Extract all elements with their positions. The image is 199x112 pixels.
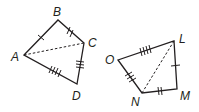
- vertex-label-o: O: [105, 53, 114, 67]
- vertex-label-l: L: [179, 32, 186, 46]
- vertex-label-a: A: [10, 50, 19, 64]
- geometry-diagram: B C A D L M N O: [0, 0, 199, 112]
- vertex-label-b: B: [53, 5, 61, 19]
- vertex-label-m: M: [180, 89, 190, 103]
- polygon-abcd: [24, 20, 84, 84]
- vertex-label-n: N: [131, 95, 140, 109]
- polygon-lmno: [118, 41, 177, 93]
- vertex-label-d: D: [72, 89, 81, 103]
- diagonal-ac: [24, 43, 84, 55]
- tick-marks-lm: [171, 65, 180, 66]
- quadrilateral-abcd: [24, 20, 84, 84]
- vertex-label-c: C: [88, 36, 97, 50]
- quadrilateral-lmno: [118, 41, 180, 95]
- tick-marks-no: [125, 72, 136, 82]
